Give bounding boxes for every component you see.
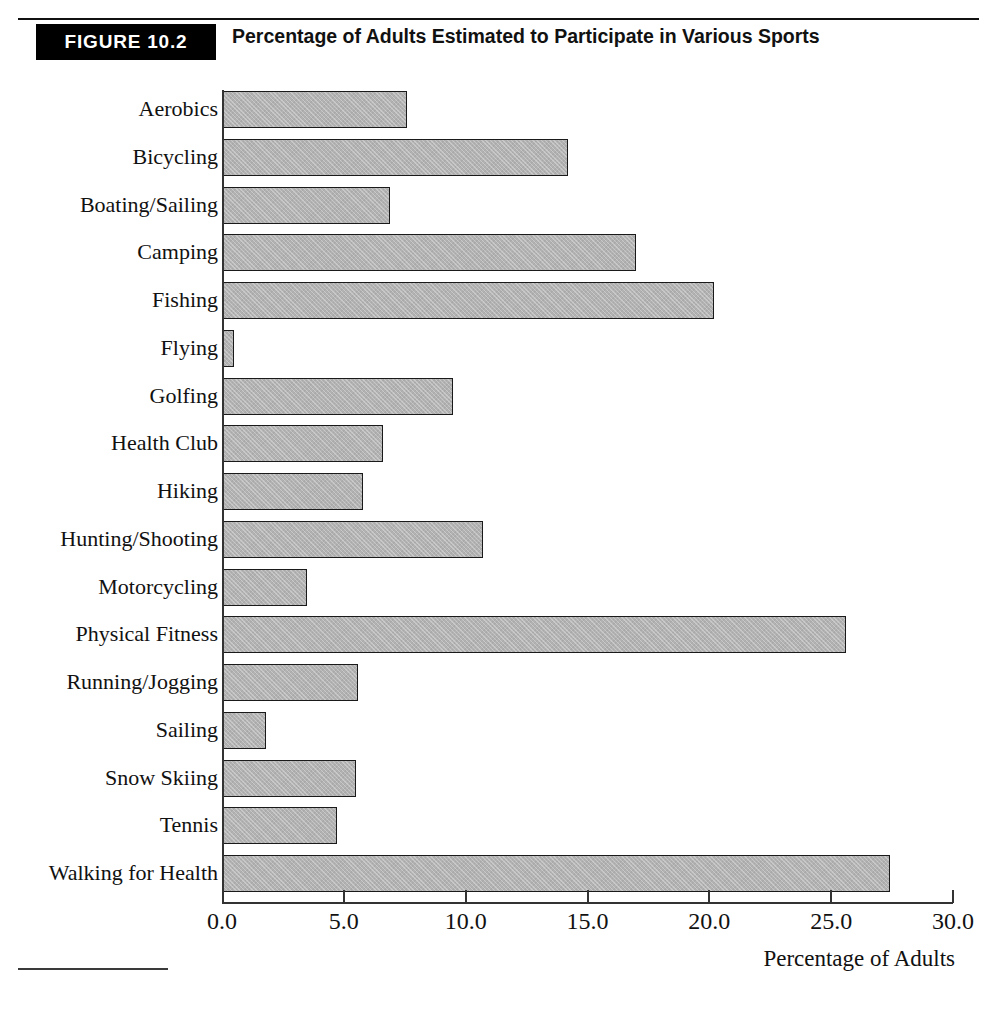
bar: [222, 91, 407, 128]
bar-row: Bicycling: [222, 138, 953, 185]
figure-header: FIGURE 10.2 Percentage of Adults Estimat…: [18, 18, 979, 86]
bar: [222, 855, 890, 892]
bar-category-label: Fishing: [152, 281, 218, 319]
x-axis-tick: [830, 890, 832, 903]
plot-area: AerobicsBicyclingBoating/SailingCampingF…: [222, 90, 953, 902]
bar-chart: AerobicsBicyclingBoating/SailingCampingF…: [0, 86, 997, 936]
bar-row: Golfing: [222, 377, 953, 424]
bar: [222, 425, 383, 462]
bar-row: Aerobics: [222, 90, 953, 137]
bar-row: Tennis: [222, 806, 953, 853]
bar: [222, 616, 846, 653]
bar-category-label: Tennis: [160, 806, 218, 844]
bar-row: Running/Jogging: [222, 663, 953, 710]
bar-category-label: Bicycling: [132, 138, 218, 176]
bar-row: Fishing: [222, 281, 953, 328]
x-axis-tick-label: 15.0: [548, 908, 628, 935]
bar-row: Sailing: [222, 711, 953, 758]
bar: [222, 664, 358, 701]
x-axis-tick: [587, 890, 589, 903]
bar: [222, 521, 483, 558]
bar-category-label: Walking for Health: [49, 854, 218, 892]
header-divider: [18, 18, 979, 20]
y-axis-line: [222, 90, 224, 902]
bar-category-label: Flying: [161, 329, 218, 367]
bar: [222, 234, 636, 271]
footer-divider: [18, 968, 168, 970]
bar-category-label: Hunting/Shooting: [60, 520, 218, 558]
bar: [222, 569, 307, 606]
bar-category-label: Snow Skiing: [105, 759, 218, 797]
figure-number-badge: FIGURE 10.2: [36, 24, 216, 60]
bar-row: Hiking: [222, 472, 953, 519]
x-axis-title: Percentage of Adults: [763, 946, 955, 972]
bar-row: Health Club: [222, 424, 953, 471]
bar-row: Flying: [222, 329, 953, 376]
bar-category-label: Health Club: [111, 424, 218, 462]
bar: [222, 807, 337, 844]
bar: [222, 187, 390, 224]
bar-category-label: Aerobics: [139, 90, 218, 128]
x-axis-tick-label: 20.0: [669, 908, 749, 935]
bar: [222, 139, 568, 176]
x-axis-tick-label: 10.0: [426, 908, 506, 935]
bar-category-label: Golfing: [150, 377, 218, 415]
bar-row: Hunting/Shooting: [222, 520, 953, 567]
bar: [222, 712, 266, 749]
bar: [222, 282, 714, 319]
x-axis-tick-label: 0.0: [182, 908, 262, 935]
bar-category-label: Physical Fitness: [76, 615, 218, 653]
bar-row: Camping: [222, 233, 953, 280]
x-axis-tick: [708, 890, 710, 903]
bar-category-label: Sailing: [156, 711, 218, 749]
x-axis-tick-label: 30.0: [913, 908, 993, 935]
bar-category-label: Camping: [137, 233, 218, 271]
bar-row: Motorcycling: [222, 568, 953, 615]
x-axis-tick-label: 5.0: [304, 908, 384, 935]
bar-row: Snow Skiing: [222, 759, 953, 806]
x-axis-tick: [465, 890, 467, 903]
bar: [222, 473, 363, 510]
bar-row: Physical Fitness: [222, 615, 953, 662]
bar-category-label: Hiking: [157, 472, 218, 510]
bar-category-label: Motorcycling: [98, 568, 218, 606]
bar: [222, 378, 453, 415]
figure-title: Percentage of Adults Estimated to Partic…: [232, 24, 932, 49]
bar: [222, 760, 356, 797]
bar-row: Boating/Sailing: [222, 186, 953, 233]
x-axis-tick: [952, 890, 954, 903]
bar-category-label: Running/Jogging: [66, 663, 218, 701]
x-axis-tick: [343, 890, 345, 903]
x-axis-tick-label: 25.0: [791, 908, 871, 935]
bar-category-label: Boating/Sailing: [80, 186, 218, 224]
